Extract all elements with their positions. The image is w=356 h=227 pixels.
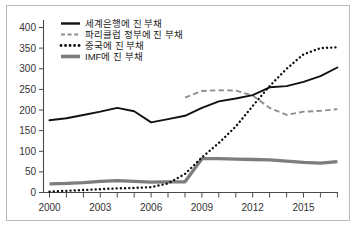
y-tick-label-50: 50 <box>25 166 37 177</box>
legend-label-parisclub: 파리클럽 정부에 진 부채 <box>85 29 183 40</box>
legend-item-worldbank: 세계은행에 진 부채 <box>61 18 162 29</box>
legend-label-worldbank: 세계은행에 진 부채 <box>85 18 162 29</box>
y-tick-label-350: 350 <box>19 43 36 54</box>
plot-area: 0 50 100 150 200 250 300 350 400 <box>0 0 356 227</box>
x-tick-label-2012: 2012 <box>242 202 265 213</box>
series-line-imf <box>50 159 338 184</box>
y-tick-label-250: 250 <box>19 84 36 95</box>
series-line-parisclub <box>185 90 337 115</box>
y-tick-label-0: 0 <box>30 187 36 198</box>
legend-item-imf: IMF에 진 부채 <box>61 51 143 62</box>
x-axis-ticks: 2000 2003 2006 2009 2012 2015 <box>38 193 337 214</box>
x-tick-label-2000: 2000 <box>38 202 61 213</box>
y-tick-label-200: 200 <box>19 105 36 116</box>
x-tick-label-2003: 2003 <box>89 202 112 213</box>
x-tick-label-2009: 2009 <box>191 202 214 213</box>
y-tick-label-150: 150 <box>19 125 36 136</box>
legend-label-china: 중국에 진 부채 <box>85 40 144 51</box>
y-tick-label-100: 100 <box>19 146 36 157</box>
series-group <box>50 47 338 191</box>
legend-label-imf: IMF에 진 부채 <box>85 51 143 62</box>
line-chart-svg: 0 50 100 150 200 250 300 350 400 <box>0 0 356 227</box>
legend-item-china: 중국에 진 부채 <box>61 40 144 51</box>
x-tick-label-2015: 2015 <box>292 202 315 213</box>
chart-figure: 0 50 100 150 200 250 300 350 400 <box>0 0 356 227</box>
legend-item-parisclub: 파리클럽 정부에 진 부채 <box>61 29 183 40</box>
y-axis-ticks: 0 50 100 150 200 250 300 350 400 <box>19 22 43 198</box>
y-tick-label-300: 300 <box>19 63 36 74</box>
y-tick-label-400: 400 <box>19 22 36 33</box>
x-tick-label-2006: 2006 <box>140 202 163 213</box>
chart-legend: 세계은행에 진 부채 파리클럽 정부에 진 부채 중국에 진 부채 IMF에 진… <box>61 18 183 62</box>
